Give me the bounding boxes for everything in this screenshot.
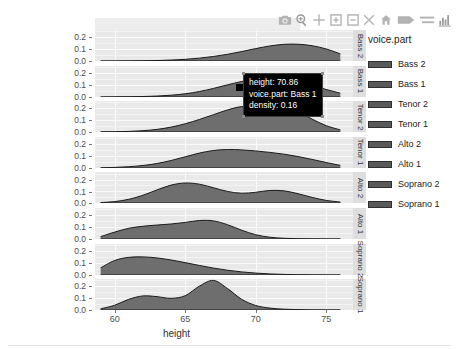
facet-strip: Soprano 2 — [353, 244, 366, 275]
y-axis-tick-label: 0.0 — [60, 92, 86, 102]
y-axis-tick-mark — [89, 310, 92, 311]
legend-swatch — [368, 161, 392, 168]
legend-item-label: Bass 1 — [398, 79, 426, 89]
legend-item[interactable]: Bass 1 — [368, 74, 459, 94]
y-axis-tick-label: 0.0 — [60, 56, 86, 66]
facet-panel[interactable] — [95, 208, 353, 239]
plotly-logo-icon[interactable] — [437, 12, 453, 28]
facet-panel[interactable] — [95, 279, 353, 310]
y-axis-tick-label: 0.2 — [60, 281, 86, 291]
toggle-spike-lines-icon[interactable] — [395, 12, 417, 28]
y-axis-tick-label: 0.1 — [60, 222, 86, 232]
legend-item-label: Soprano 1 — [398, 199, 440, 209]
y-axis-tick-mark — [89, 132, 92, 133]
y-axis-tick-label: 0.2 — [60, 68, 86, 78]
legend-item[interactable]: Soprano 1 — [368, 194, 459, 214]
plotly-modebar[interactable] — [277, 10, 453, 30]
y-axis-tick-label: 0.1 — [60, 293, 86, 303]
y-axis-tick-mark — [89, 49, 92, 50]
hover-tooltip: height: 70.86 voice.part: Bass 1 density… — [243, 73, 323, 117]
y-axis-tick-mark — [89, 156, 92, 157]
facet-strip-label: Alto 1 — [355, 213, 364, 233]
footer-divider — [8, 345, 451, 346]
facet-strip: Alto 1 — [353, 208, 366, 239]
density-curve[interactable] — [95, 244, 353, 275]
y-axis-tick-mark — [89, 37, 92, 38]
facet-strip-label: Tenor 1 — [355, 139, 364, 166]
x-axis-title: height — [0, 328, 353, 339]
y-axis-tick-label: 0.0 — [60, 305, 86, 315]
y-axis-tick-label: 0.0 — [60, 198, 86, 208]
y-axis-tick-label: 0.1 — [60, 44, 86, 54]
x-axis-tick-mark — [115, 310, 116, 313]
facet-panel[interactable] — [95, 30, 353, 61]
y-axis-tick-label: 0.2 — [60, 139, 86, 149]
y-axis-tick-mark — [89, 227, 92, 228]
legend-title: voice.part — [368, 34, 459, 45]
y-axis-tick-mark — [89, 61, 92, 62]
legend-item[interactable]: Alto 2 — [368, 134, 459, 154]
facet-panel[interactable] — [95, 137, 353, 168]
legend-items: Bass 2Bass 1Tenor 2Tenor 1Alto 2Alto 1So… — [368, 54, 459, 214]
legend-item[interactable]: Soprano 2 — [368, 174, 459, 194]
facet-panel[interactable] — [95, 244, 353, 275]
reset-axes-icon[interactable] — [378, 12, 394, 28]
density-curve[interactable] — [95, 172, 353, 203]
legend-swatch — [368, 121, 392, 128]
facet-strip: Bass 1 — [353, 66, 366, 97]
y-axis-tick-label: 0.0 — [60, 163, 86, 173]
x-axis-tick-label: 65 — [170, 314, 200, 324]
legend-item[interactable]: Alto 1 — [368, 154, 459, 174]
y-axis-tick-mark — [89, 275, 92, 276]
tooltip-line-voicepart: voice.part: Bass 1 — [249, 89, 317, 101]
y-axis-tick-label: 0.2 — [60, 103, 86, 113]
y-axis-tick-mark — [89, 97, 92, 98]
pan-icon[interactable] — [311, 12, 327, 28]
density-curve[interactable] — [95, 208, 353, 239]
y-axis-tick-mark — [89, 239, 92, 240]
y-axis-tick-label: 0.1 — [60, 80, 86, 90]
y-axis-tick-label: 0.1 — [60, 151, 86, 161]
facet-strip: Tenor 1 — [353, 137, 366, 168]
y-axis-tick-mark — [89, 144, 92, 145]
y-axis-tick-label: 0.0 — [60, 127, 86, 137]
zoom-out-icon[interactable] — [345, 12, 361, 28]
legend-item-label: Tenor 2 — [398, 99, 428, 109]
x-axis-tick-label: 70 — [241, 314, 271, 324]
legend-item[interactable]: Tenor 2 — [368, 94, 459, 114]
legend-swatch — [368, 201, 392, 208]
y-axis-tick-mark — [89, 251, 92, 252]
facet-strip-label: Soprano 1 — [355, 276, 364, 313]
facet-strip: Alto 2 — [353, 172, 366, 203]
y-axis-tick-mark — [89, 120, 92, 121]
legend-swatch — [368, 61, 392, 68]
hover-compare-icon[interactable] — [418, 12, 436, 28]
x-axis-tick-mark — [326, 310, 327, 313]
y-axis-tick-label: 0.1 — [60, 187, 86, 197]
facet-strip: Soprano 1 — [353, 279, 366, 310]
autoscale-icon[interactable] — [361, 12, 377, 28]
facet-strip-label: Tenor 2 — [355, 103, 364, 130]
plotly-chart-root: 0.00.10.2Bass 20.00.10.2Bass 10.00.10.2T… — [0, 0, 459, 349]
camera-icon[interactable] — [277, 12, 293, 28]
y-axis-tick-mark — [89, 192, 92, 193]
zoom-in-icon[interactable] — [328, 12, 344, 28]
y-axis-tick-label: 0.2 — [60, 246, 86, 256]
y-axis-tick-mark — [89, 85, 92, 86]
legend-item[interactable]: Tenor 1 — [368, 114, 459, 134]
facet-panel[interactable] — [95, 172, 353, 203]
x-axis-tick-label: 60 — [100, 314, 130, 324]
legend-swatch — [368, 101, 392, 108]
legend-item-label: Tenor 1 — [398, 119, 428, 129]
facet-strip-label: Alto 2 — [355, 178, 364, 198]
y-axis-tick-mark — [89, 73, 92, 74]
zoom-icon[interactable] — [294, 12, 310, 28]
y-axis-tick-label: 0.2 — [60, 32, 86, 42]
density-curve[interactable] — [95, 30, 353, 61]
y-axis-tick-label: 0.2 — [60, 175, 86, 185]
density-curve[interactable] — [95, 137, 353, 168]
density-curve[interactable] — [95, 279, 353, 310]
x-axis-tick-mark — [185, 310, 186, 313]
legend-item[interactable]: Bass 2 — [368, 54, 459, 74]
y-axis-tick-mark — [89, 298, 92, 299]
